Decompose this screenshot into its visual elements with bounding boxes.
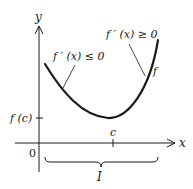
annotation-left: f ′ (x) ≤ 0 [52, 50, 105, 63]
leader-left [63, 65, 75, 88]
curve-label: f [152, 65, 159, 78]
interval-brace [45, 157, 158, 167]
c-label: c [110, 126, 116, 139]
interval-label: I [96, 170, 102, 184]
leader-right [129, 44, 145, 76]
origin-label: 0 [29, 147, 36, 160]
annotation-right: f ′ (x) ≥ 0 [105, 28, 158, 41]
x-axis-label: x [179, 136, 186, 150]
y-axis-label: y [34, 10, 42, 24]
function-graph: y x 0 f (c) c f f ′ (x) ≤ 0 f ′ (x) ≥ 0 … [0, 0, 193, 189]
fc-label: f (c) [9, 112, 32, 125]
